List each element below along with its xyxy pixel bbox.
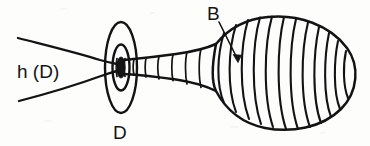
neck-rib [145,58,146,77]
bulb-rib [230,25,236,112]
neck-rib [133,59,134,75]
neck-rib [158,56,159,79]
neck-rib [172,54,173,80]
bulb-label: B [207,3,220,24]
bulb-rib [242,20,249,119]
bulb-rib [335,41,340,109]
bulb-leader-arrowhead [233,55,241,63]
bulb-rib [218,33,224,103]
bulb-rib [325,33,331,117]
bulb-rib [266,17,273,128]
bulb-rib [344,51,348,98]
bulb-body [213,17,356,130]
diagram-canvas: h (D) D B [0,0,370,146]
neck-rib [199,49,201,88]
bulb-rib [254,18,261,125]
bulb-rib [314,27,321,123]
horn-label: h (D) [17,61,59,82]
neck-rib [186,52,188,84]
disk-label: D [113,122,127,143]
bulb-rib [303,23,310,128]
bulb-rib [291,19,298,129]
disk-rings [105,22,137,113]
bulb-rib [279,17,286,129]
figure-container: h (D) D B [0,0,370,146]
